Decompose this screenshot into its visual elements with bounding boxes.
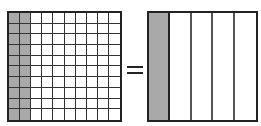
equals-sign [127,66,143,78]
grid-cell [98,77,109,88]
grid-cell [65,66,76,77]
grid-cell [87,34,98,45]
grid-cell [42,88,53,99]
grid-cell [76,77,87,88]
grid-cell [53,88,64,99]
grid-cell [31,109,42,120]
hundred-grid [7,11,122,122]
grid-cell [31,99,42,110]
grid-cell [20,88,31,99]
fifths-model [147,11,258,122]
grid-cell [31,45,42,56]
grid-cell [20,66,31,77]
grid-cell [9,13,20,24]
grid-cell [53,45,64,56]
grid-cell [20,13,31,24]
grid-cell [9,56,20,67]
grid-cell [31,24,42,35]
grid-cell [42,109,53,120]
grid-cell [76,88,87,99]
grid-cell [65,34,76,45]
fraction-strip [149,13,170,120]
grid-cell [87,88,98,99]
grid-cell [76,66,87,77]
grid-cell [76,56,87,67]
grid-cell [53,56,64,67]
grid-cell [42,13,53,24]
grid-cell [9,99,20,110]
grid-cell [98,88,109,99]
grid-cell [9,109,20,120]
grid-cell [42,24,53,35]
grid-cell [20,109,31,120]
grid-cell [9,24,20,35]
grid-cell [109,109,120,120]
grid-cell [87,109,98,120]
grid-cell [87,56,98,67]
grid-cell [65,45,76,56]
grid-cell [65,56,76,67]
grid-cell [65,109,76,120]
grid-cell [98,66,109,77]
equals-bar-bottom [127,72,143,74]
grid-cell [98,56,109,67]
grid-cell [9,77,20,88]
grid-cell [109,88,120,99]
grid-cell [65,88,76,99]
fraction-strip [213,13,234,120]
grid-cell [65,99,76,110]
grid-cell [42,56,53,67]
grid-cell [65,77,76,88]
grid-cell [31,56,42,67]
grid-cell [98,109,109,120]
grid-cell [31,13,42,24]
grid-cell [76,109,87,120]
fraction-strip [192,13,213,120]
grid-cell [42,99,53,110]
grid-cell [109,77,120,88]
grid-cell [109,56,120,67]
grid-cell [31,34,42,45]
grid-cell [42,66,53,77]
grid-cell [87,66,98,77]
grid-cell [76,13,87,24]
grid-cell [9,88,20,99]
grid-cell [20,24,31,35]
fraction-strip [235,13,256,120]
grid-cell [109,34,120,45]
grid-cell [87,77,98,88]
grid-cell [87,45,98,56]
grid-cell [98,13,109,24]
grid-cell [76,45,87,56]
grid-cell [53,66,64,77]
grid-cell [42,45,53,56]
grid-cell [109,99,120,110]
grid-cell [20,56,31,67]
grid-cell [109,66,120,77]
grid-cell [42,34,53,45]
grid-cell [109,13,120,24]
grid-cell [9,66,20,77]
grid-cell [98,45,109,56]
grid-cell [76,34,87,45]
grid-cell [109,45,120,56]
grid-cell [53,109,64,120]
grid-cell [20,45,31,56]
grid-cell [98,34,109,45]
grid-cell [53,77,64,88]
grid-cell [20,34,31,45]
grid-cell [31,88,42,99]
grid-cell [31,77,42,88]
grid-cell [98,99,109,110]
equals-bar-top [127,66,143,68]
grid-cell [31,66,42,77]
grid-cell [98,24,109,35]
grid-cell [53,24,64,35]
grid-cell [87,99,98,110]
grid-cell [20,99,31,110]
grid-cell [65,13,76,24]
grid-cell [42,77,53,88]
grid-cell [87,24,98,35]
grid-cell [20,77,31,88]
fraction-strip [170,13,191,120]
